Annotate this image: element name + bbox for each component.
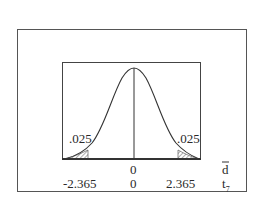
t-left-critical-value: -2.365 <box>63 177 97 190</box>
right-tail-area-label: .025 <box>177 132 200 145</box>
t-zero-tick: 0 <box>130 177 137 190</box>
t-right-critical-value: 2.365 <box>166 177 195 190</box>
dbar-zero-tick: 0 <box>130 163 137 176</box>
t-axis-label: t7 <box>222 177 230 196</box>
t-axis-df-subscript: 7 <box>226 185 230 194</box>
dbar-axis-label: d <box>222 163 229 176</box>
left-tail-area-label: .025 <box>69 132 92 145</box>
